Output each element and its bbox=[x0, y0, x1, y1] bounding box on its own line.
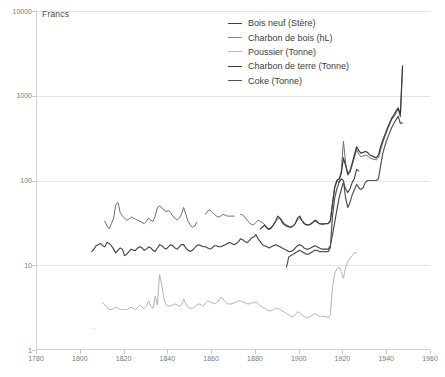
y-tick-label-100: 100 bbox=[2, 177, 32, 184]
y-tick-label-10000: 10000 bbox=[2, 8, 32, 15]
x-tick-mark-1940 bbox=[386, 350, 387, 354]
legend-label: Coke (Tonne) bbox=[248, 76, 302, 86]
legend-swatch-icon bbox=[228, 23, 242, 24]
series-2 bbox=[93, 253, 356, 329]
x-tick-label-1800: 1800 bbox=[60, 355, 100, 363]
series-line bbox=[241, 67, 403, 229]
x-tick-mark-1900 bbox=[299, 350, 300, 354]
chart-legend: Bois neuf (Stère)Charbon de bois (hL)Pou… bbox=[228, 16, 349, 88]
series-line bbox=[105, 203, 197, 229]
legend-swatch-icon bbox=[228, 37, 242, 38]
x-tick-mark-1880 bbox=[255, 350, 256, 354]
x-tick-label-1880: 1880 bbox=[235, 355, 275, 363]
series-line bbox=[287, 116, 403, 267]
x-tick-label-1960: 1960 bbox=[410, 355, 445, 363]
x-tick-label-1860: 1860 bbox=[191, 355, 231, 363]
series-line bbox=[92, 169, 359, 255]
x-tick-label-1920: 1920 bbox=[322, 355, 362, 363]
x-tick-mark-1860 bbox=[211, 350, 212, 354]
legend-label: Poussier (Tonne) bbox=[248, 47, 316, 57]
x-tick-label-1940: 1940 bbox=[366, 355, 406, 363]
x-tick-mark-1960 bbox=[430, 350, 431, 354]
x-tick-label-1780: 1780 bbox=[16, 355, 56, 363]
x-tick-mark-1920 bbox=[342, 350, 343, 354]
legend-item-1[interactable]: Charbon de bois (hL) bbox=[228, 30, 349, 44]
y-tick-label-10: 10 bbox=[2, 262, 32, 269]
x-tick-mark-1820 bbox=[124, 350, 125, 354]
legend-swatch-icon bbox=[228, 66, 242, 67]
legend-swatch-icon bbox=[228, 80, 242, 81]
y-tick-label-1: 1 bbox=[2, 347, 32, 354]
chart-root: 110100100010000 178018001820184018601880… bbox=[0, 0, 445, 377]
legend-label: Charbon de bois (hL) bbox=[248, 33, 333, 43]
x-tick-label-1900: 1900 bbox=[279, 355, 319, 363]
legend-swatch-icon bbox=[228, 51, 242, 52]
series-point bbox=[93, 328, 94, 329]
legend-item-4[interactable]: Coke (Tonne) bbox=[228, 74, 349, 88]
series-1 bbox=[105, 67, 403, 229]
series-line bbox=[206, 210, 234, 217]
series-line bbox=[103, 253, 357, 318]
series-0 bbox=[92, 169, 359, 255]
legend-item-2[interactable]: Poussier (Tonne) bbox=[228, 45, 349, 59]
legend-item-0[interactable]: Bois neuf (Stère) bbox=[228, 16, 349, 30]
legend-label: Bois neuf (Stère) bbox=[248, 18, 316, 28]
x-tick-label-1840: 1840 bbox=[147, 355, 187, 363]
x-tick-mark-1840 bbox=[167, 350, 168, 354]
y-tick-label-1000: 1000 bbox=[2, 92, 32, 99]
x-tick-mark-1800 bbox=[80, 350, 81, 354]
y-axis-title: Francs bbox=[42, 9, 69, 19]
x-tick-label-1820: 1820 bbox=[104, 355, 144, 363]
legend-label: Charbon de terre (Tonne) bbox=[248, 61, 349, 71]
legend-item-3[interactable]: Charbon de terre (Tonne) bbox=[228, 59, 349, 73]
series-4 bbox=[287, 116, 403, 267]
x-tick-mark-1780 bbox=[36, 350, 37, 354]
